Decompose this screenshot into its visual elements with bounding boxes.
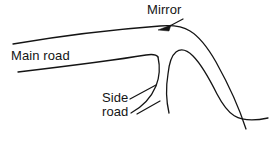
label-mirror: Mirror xyxy=(147,3,182,17)
main-road-upper-edge xyxy=(13,26,246,129)
traffic-island-edge xyxy=(167,50,268,120)
label-side-road-line1: Side xyxy=(102,90,128,105)
label-side-road: Sideroad xyxy=(102,91,128,119)
label-side-road-line2: road xyxy=(102,105,128,119)
diagram-canvas xyxy=(0,0,278,142)
label-main-road: Main road xyxy=(11,49,70,63)
side-road-leader-upper xyxy=(130,85,156,99)
road-junction-diagram: Mirror Main road Sideroad xyxy=(0,0,278,142)
